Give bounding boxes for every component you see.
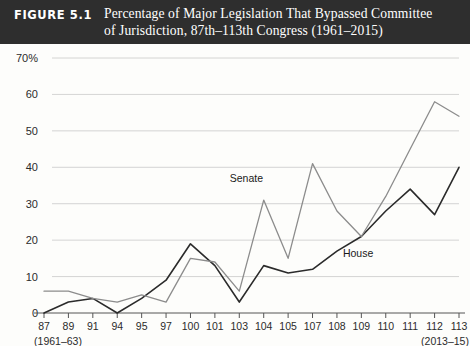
figure-title: Percentage of Major Legislation That Byp… (104, 4, 432, 39)
x-axis-tick-label: 87 (38, 320, 50, 332)
x-axis-tick-label: 89 (63, 320, 75, 332)
figure-title-line-2: of Jurisdiction, 87th–113th Congress (19… (104, 23, 383, 38)
x-axis-tick-label: 91 (87, 320, 99, 332)
y-axis-tick-label: 60 (26, 88, 38, 100)
figure-title-line-1: Percentage of Major Legislation That Byp… (104, 6, 432, 21)
y-axis-tick-label: 50 (26, 125, 38, 137)
figure-number-label: FIGURE 5.1 (14, 4, 92, 22)
x-axis-tick-label: 104 (255, 320, 273, 332)
x-axis-start-range-label: (1961–63) (34, 335, 82, 346)
y-axis-tick-label: 10 (26, 271, 38, 283)
x-axis-tick-label: 110 (377, 320, 394, 332)
y-axis-labels-group: 010203040506070% (16, 52, 38, 319)
x-axis-tick-label: 95 (136, 320, 148, 332)
x-axis-tick-label: 105 (279, 320, 297, 332)
x-axis-tick-label: 101 (206, 320, 224, 332)
x-axis-tick-label: 111 (402, 320, 418, 332)
figure-container: FIGURE 5.1 Percentage of Major Legislati… (0, 0, 470, 346)
gridlines-group (52, 58, 459, 277)
x-axis-tick-label: 109 (353, 320, 371, 332)
x-axis-tick-label: 108 (328, 320, 346, 332)
y-axis-tick-label: 40 (26, 161, 38, 173)
x-axis-end-range-label: (2013–15) (421, 335, 469, 346)
x-axis-tick-label: 97 (160, 320, 172, 332)
y-axis-tick-label: 70% (16, 52, 38, 64)
x-axis-group (34, 313, 465, 318)
series-label-senate: Senate (230, 172, 263, 184)
y-axis-tick-label: 30 (26, 198, 38, 210)
x-axis-tick-label: 107 (304, 320, 322, 332)
x-axis-tick-label: 112 (426, 320, 443, 332)
x-axis-tick-label: 100 (182, 320, 200, 332)
line-chart: 010203040506070% 87899194959710010110310… (0, 44, 470, 346)
x-axis-labels-group: 8789919495971001011031041051071081091101… (34, 320, 469, 346)
x-axis-tick-label: 103 (231, 320, 249, 332)
data-series-group (44, 102, 459, 313)
x-axis-tick-label: 94 (111, 320, 123, 332)
figure-title-bar: FIGURE 5.1 Percentage of Major Legislati… (0, 0, 470, 44)
plot-area: 010203040506070% 87899194959710010110310… (0, 44, 470, 346)
x-axis-tick-label: 113 (451, 320, 468, 332)
y-axis-tick-label: 20 (26, 234, 38, 246)
series-label-house: House (343, 247, 374, 259)
